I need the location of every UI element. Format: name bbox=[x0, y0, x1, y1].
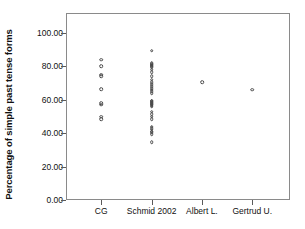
data-point bbox=[99, 103, 103, 107]
data-point bbox=[150, 70, 154, 74]
data-point bbox=[150, 105, 154, 109]
y-tick-label: 40.00 bbox=[42, 129, 63, 138]
data-point bbox=[150, 141, 154, 145]
x-tick-mark bbox=[202, 200, 203, 205]
data-point bbox=[99, 87, 103, 91]
chart-figure: Percentage of simple past tense forms 0.… bbox=[0, 0, 305, 229]
y-axis-ticks: 0.0020.0040.0060.0080.00100.00 bbox=[0, 0, 63, 229]
data-point bbox=[200, 80, 204, 84]
y-tick-label: 80.00 bbox=[42, 62, 63, 71]
x-tick-label-schmid-2002: Schmid 2002 bbox=[127, 207, 177, 216]
data-point bbox=[150, 132, 154, 136]
y-tick-mark bbox=[61, 200, 66, 201]
data-point bbox=[99, 65, 103, 69]
x-tick-mark bbox=[252, 200, 253, 205]
data-point bbox=[150, 117, 154, 121]
data-point bbox=[99, 58, 103, 62]
x-tick-label-albert-l: Albert L. bbox=[186, 207, 218, 216]
data-point bbox=[250, 88, 254, 92]
y-tick-label: 60.00 bbox=[42, 96, 63, 105]
x-tick-label-cg: CG bbox=[95, 207, 108, 216]
data-point bbox=[150, 91, 154, 95]
y-tick-label: 20.00 bbox=[42, 162, 63, 171]
data-point bbox=[99, 75, 103, 79]
x-tick-mark bbox=[101, 200, 102, 205]
data-point bbox=[99, 117, 103, 121]
x-tick-mark bbox=[152, 200, 153, 205]
y-tick-label: 100.00 bbox=[37, 29, 63, 38]
x-tick-label-gertrud-u: Gertrud U. bbox=[232, 207, 272, 216]
data-point bbox=[150, 49, 154, 53]
